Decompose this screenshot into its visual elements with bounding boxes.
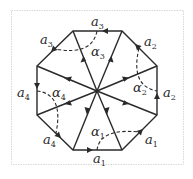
- arrow-down-icon: [34, 83, 40, 89]
- edge-label-lower-right: a1: [145, 132, 158, 149]
- center-point: [95, 89, 99, 93]
- spoke-arrows: [64, 56, 129, 115]
- octagon-diagram: a3 a3 a4 a4 a1 a1 a2 a2 α1 α2 α3 α4: [0, 0, 193, 179]
- edge-label-upper-right: a2: [144, 34, 157, 51]
- edge-label-upper-left: a3: [40, 32, 53, 49]
- angle-label-alpha-3: α3: [91, 44, 105, 61]
- angle-label-alpha-1: α1: [91, 124, 105, 141]
- edge-label-left: a4: [17, 85, 30, 102]
- arrow-up-icon: [154, 93, 160, 99]
- edge-label-right: a2: [163, 85, 176, 102]
- angle-label-alpha-2: α2: [133, 80, 147, 97]
- edge-label-lower-left: a4: [43, 132, 56, 149]
- angle-label-alpha-4: α4: [52, 85, 66, 102]
- spoke-arrow-3-icon: [122, 77, 129, 82]
- edge-label-top: a3: [91, 14, 104, 31]
- edge-label-bottom: a1: [93, 151, 106, 168]
